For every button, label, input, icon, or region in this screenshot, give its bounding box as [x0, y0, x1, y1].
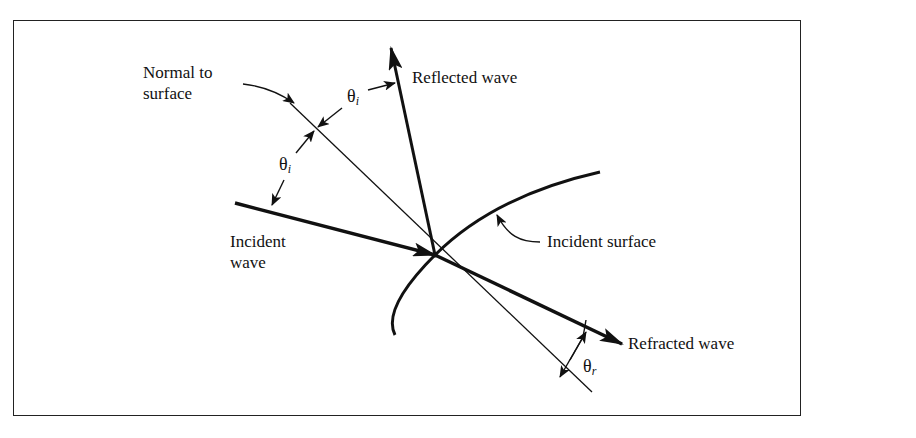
theta-r-label: θr: [583, 356, 596, 379]
normal-to-surface-label: Normal to surface: [143, 62, 212, 104]
theta-i-lower-arrow-a: [296, 131, 314, 153]
incident-wave-line2: wave: [230, 252, 286, 273]
incident-surface-label: Incident surface: [547, 231, 656, 252]
normal-label-line2: surface: [143, 83, 212, 104]
normal-label-line1: Normal to: [143, 62, 212, 83]
reflected-wave-label: Reflected wave: [412, 67, 517, 88]
wave-reflection-diagram: [0, 0, 916, 438]
theta-i-upper-arrow-a: [318, 108, 342, 127]
incident-surface-leader-arrow: [497, 215, 540, 242]
theta-i-lower-arrow-b: [272, 180, 284, 205]
incident-wave-label: Incident wave: [230, 231, 286, 273]
intersection-point: [433, 253, 438, 258]
theta-i-lower-label: θi: [279, 154, 291, 177]
refracted-wave-label: Refracted wave: [628, 333, 734, 354]
theta-i-upper-label: θi: [347, 86, 359, 109]
theta-i-upper-arrow-b: [368, 83, 395, 90]
normal-leader-arrow: [243, 84, 294, 103]
incident-wave-line1: Incident: [230, 231, 286, 252]
